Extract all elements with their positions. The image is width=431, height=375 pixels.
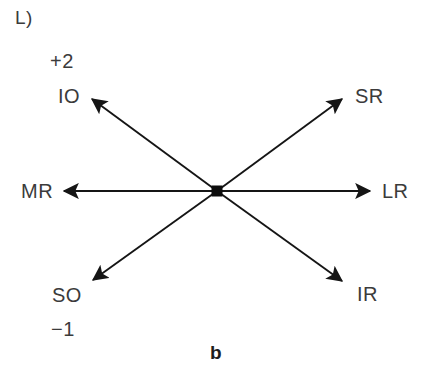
arrow-line-ir [217, 191, 342, 281]
panel-label: L) [15, 8, 33, 28]
grade-label-lower: −1 [51, 319, 75, 339]
muscle-label-lr: LR [382, 181, 409, 201]
center-node [212, 186, 223, 197]
figure-container: L) +2 IO SR MR LR SO IR −1 b [0, 0, 431, 375]
figure-caption: b [210, 343, 222, 363]
muscle-label-io: IO [58, 86, 80, 106]
grade-label-upper: +2 [50, 51, 74, 71]
muscle-label-sr: SR [355, 86, 384, 106]
muscle-label-ir: IR [357, 284, 378, 304]
arrow-line-so [93, 191, 217, 280]
arrow-line-io [92, 99, 217, 191]
muscle-label-mr: MR [21, 181, 53, 201]
arrow-line-sr [217, 99, 342, 191]
muscle-label-so: SO [52, 285, 82, 305]
